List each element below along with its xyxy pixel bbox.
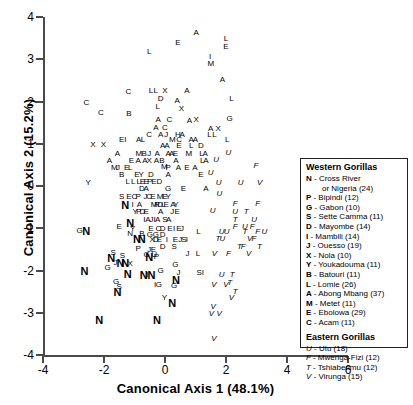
legend-text: - Tshiaberimu (12) [313, 363, 377, 372]
data-point: J [186, 250, 190, 258]
legend-key: J [306, 241, 313, 250]
data-point: A [193, 29, 198, 37]
data-point: J [180, 225, 184, 233]
data-point: V [217, 310, 222, 318]
x-axis-line [43, 355, 348, 357]
data-point: V [211, 281, 216, 289]
legend-text: - Mambili (14) [310, 232, 359, 241]
legend-entry-C: C - Acam (11) [306, 318, 403, 328]
legend-key: D [306, 222, 314, 231]
legend-key: U [306, 344, 314, 353]
data-point: A [176, 164, 181, 172]
legend-entry-U: U - Utu (18) [306, 344, 403, 354]
legend-text: - Gabon (10) [314, 203, 359, 212]
legend-text: - Lomie (26) [313, 280, 356, 289]
legend-entry-L: L - Lomie (26) [306, 280, 403, 290]
data-point: L [126, 178, 130, 186]
data-point: L [131, 178, 135, 186]
legend-text: - Sette Camma (11) [314, 212, 384, 221]
data-point: P [135, 245, 140, 253]
data-point: J [114, 259, 118, 267]
legend-entry-F: F - Mwenga-Fizi (12) [306, 353, 403, 363]
data-point: X [179, 105, 184, 113]
data-point: I [173, 225, 175, 233]
legend-key: N [306, 174, 314, 183]
data-point: L [141, 136, 145, 144]
scatter-plot-figure: AELELIMACLLXADALCLXCBACAXGACAXCAJHALLEIA… [0, 0, 413, 405]
data-point: D [157, 178, 163, 186]
legend-text: - Batouri (11) [314, 270, 360, 279]
data-point: V [209, 310, 214, 318]
legend-western-entries: N - Cross Riveror Nigeria (24)P - Bipind… [306, 174, 403, 328]
data-point: M [207, 60, 214, 68]
data-point: A [158, 131, 163, 139]
y-tick--1 [36, 227, 43, 229]
legend-key: C [306, 318, 314, 327]
data-point: G [171, 282, 177, 290]
data-point: C [146, 131, 152, 139]
data-point: A [220, 76, 225, 84]
data-point: L [196, 250, 200, 258]
legend-text: - Abong Mbang (37) [314, 289, 385, 298]
legend-key: L [306, 280, 313, 289]
legend-text: - Cross River [314, 174, 361, 183]
legend-entry-S: S - Sette Camma (11) [306, 212, 403, 222]
legend-entry-I: I - Mambili (14) [306, 232, 403, 242]
data-point: L [147, 48, 151, 56]
x-tick-4 [286, 356, 288, 363]
data-point: N [95, 315, 103, 326]
data-point: E [223, 43, 228, 51]
data-point: B [119, 171, 124, 179]
legend-entry-B: B - Batouri (11) [306, 270, 403, 280]
data-point: A [203, 157, 208, 165]
legend-text: - Bipindi (12) [313, 193, 358, 202]
data-point: A [115, 150, 120, 158]
data-point: F [241, 243, 246, 251]
data-point: D [160, 243, 166, 251]
data-point: N [80, 266, 88, 277]
data-point: E [167, 225, 172, 233]
data-point: T [244, 208, 249, 216]
legend-eastern-entries: U - Utu (18)F - Mwenga-Fizi (12)T - Tshi… [306, 344, 403, 382]
data-point: I [202, 269, 204, 277]
data-point: L [212, 131, 216, 139]
data-point: E [164, 201, 169, 209]
data-point: L [225, 136, 229, 144]
data-point: V [257, 179, 262, 187]
data-point: I [124, 136, 126, 144]
data-point: A [135, 157, 140, 165]
data-point: U [213, 156, 219, 164]
legend-text: - Metet (11) [315, 299, 356, 308]
data-point: I [166, 236, 168, 244]
data-point: V [229, 294, 234, 302]
data-point: A [166, 216, 171, 224]
legend-text: - Youkadouma (11) [313, 260, 380, 269]
legend-eastern-title: Eastern Gorillas [306, 332, 403, 343]
legend-text: - Ouesso (19) [313, 241, 362, 250]
data-point: E [117, 223, 122, 231]
y-tick-1 [36, 143, 43, 145]
data-point: I [154, 281, 156, 289]
data-point: G [158, 267, 164, 275]
data-point: E [175, 208, 180, 216]
y-axis-label: Canonical Axis 2 (15.2%) [21, 88, 36, 268]
data-point: I [186, 236, 188, 244]
legend-text: - Nola (10) [314, 251, 352, 260]
data-point: A [184, 87, 189, 95]
data-point: F [250, 223, 255, 231]
legend-entry-N: N - Cross River [306, 174, 403, 184]
legend-entry-V: V - Virunga (15) [306, 372, 403, 382]
data-point: N [148, 269, 156, 280]
data-point: A [165, 171, 170, 179]
data-point: U [216, 190, 222, 198]
data-point: Y [162, 294, 167, 302]
data-point: X [146, 157, 151, 165]
legend-entry-continuation: or Nigeria (24) [306, 184, 403, 194]
legend-key: S [306, 212, 314, 221]
data-point: N [121, 200, 129, 211]
legend-entry-J: J - Ouesso (19) [306, 241, 403, 251]
x-tick-label--4: -4 [31, 364, 55, 376]
data-point: V [246, 250, 251, 258]
y-tick--2 [36, 270, 43, 272]
data-point: F [233, 223, 238, 231]
